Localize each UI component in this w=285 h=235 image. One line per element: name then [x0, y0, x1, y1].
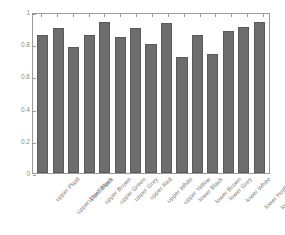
bar-chart-figure: accuracy 00.20.40.60.81 upper Plaidupper… — [0, 0, 285, 235]
bar-slot — [236, 14, 251, 173]
bar[interactable] — [238, 27, 249, 174]
bar-slot — [112, 14, 127, 173]
bar-slot — [143, 14, 158, 173]
bar[interactable] — [99, 22, 110, 173]
y-tick-label: 0.2 — [16, 139, 30, 146]
bar-slot — [97, 14, 112, 173]
bar-slot — [128, 14, 143, 173]
bar-series — [33, 14, 269, 173]
bar-slot — [35, 14, 50, 173]
bar-slot — [159, 14, 174, 173]
bar[interactable] — [207, 54, 218, 173]
bar-slot — [66, 14, 81, 173]
bar-slot — [205, 14, 220, 173]
y-tick-label: 0.4 — [16, 107, 30, 114]
x-tick-label: upper Plaid — [54, 176, 80, 202]
bar-slot — [50, 14, 65, 173]
bar-slot — [174, 14, 189, 173]
bar[interactable] — [130, 28, 141, 173]
y-tick-label: 1 — [16, 10, 30, 17]
x-axis-labels: upper Plaidupper ThinStripesupper Blacku… — [32, 176, 270, 234]
bar-slot — [221, 14, 236, 173]
bar[interactable] — [84, 35, 95, 173]
bar[interactable] — [53, 28, 64, 173]
bar-slot — [190, 14, 205, 173]
y-tick-label: 0.8 — [16, 42, 30, 49]
bar[interactable] — [145, 44, 156, 173]
bar[interactable] — [254, 22, 265, 173]
bar[interactable] — [176, 57, 187, 173]
bar[interactable] — [161, 23, 172, 173]
bar-slot — [81, 14, 96, 173]
bar[interactable] — [68, 47, 79, 173]
bar[interactable] — [115, 37, 126, 173]
bar-slot — [252, 14, 267, 173]
bar[interactable] — [223, 31, 234, 173]
bar[interactable] — [37, 35, 48, 173]
y-tick-label: 0 — [16, 171, 30, 178]
y-tick-label: 0.6 — [16, 74, 30, 81]
bar[interactable] — [192, 35, 203, 173]
plot-area: accuracy 00.20.40.60.81 — [32, 13, 270, 174]
